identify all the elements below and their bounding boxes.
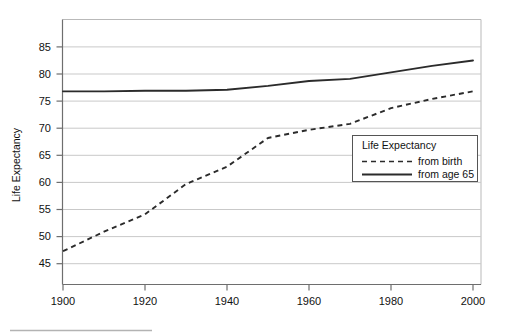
y-tick-label: 60 xyxy=(39,176,51,188)
y-tick-label: 85 xyxy=(39,41,51,53)
y-tick-label: 70 xyxy=(39,122,51,134)
y-tick-label: 55 xyxy=(39,203,51,215)
line-chart: 85 80 75 70 65 60 55 50 45 Life Expectan… xyxy=(0,0,509,335)
y-tick-label: 50 xyxy=(39,230,51,242)
y-axis-title: Life Expectancy xyxy=(10,127,22,202)
x-tick-label: 1960 xyxy=(297,295,321,307)
legend: Life Expectancy from birth from age 65 xyxy=(353,136,478,182)
legend-entry-from-age-65: from age 65 xyxy=(418,168,474,180)
y-tick-label: 65 xyxy=(39,149,51,161)
x-tick-label: 1980 xyxy=(379,295,403,307)
legend-title: Life Expectancy xyxy=(362,139,437,151)
x-tick-label: 2000 xyxy=(461,295,485,307)
y-tick-label: 80 xyxy=(39,68,51,80)
x-tick-label: 1920 xyxy=(133,295,157,307)
chart-container: 85 80 75 70 65 60 55 50 45 Life Expectan… xyxy=(0,0,509,335)
x-tick-label: 1900 xyxy=(51,295,75,307)
y-tick-labels: 85 80 75 70 65 60 55 50 45 xyxy=(39,41,51,269)
x-tick-label: 1940 xyxy=(215,295,239,307)
y-tick-label: 45 xyxy=(39,257,51,269)
legend-entry-from-birth: from birth xyxy=(418,155,463,167)
y-tick-label: 75 xyxy=(39,95,51,107)
